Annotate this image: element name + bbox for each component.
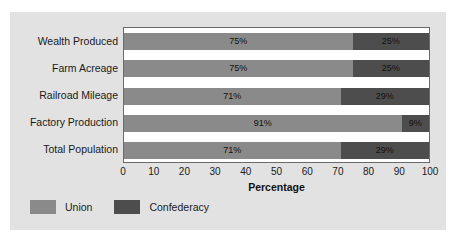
- bar-value-label: 29%: [376, 92, 394, 101]
- x-tick-label: 20: [179, 167, 190, 177]
- x-axis-title: Percentage: [123, 182, 430, 193]
- category-label: Railroad Mileage: [0, 90, 118, 101]
- bar-value-label: 29%: [376, 146, 394, 155]
- bar-segment-confederacy: 29%: [341, 142, 429, 159]
- bar-value-label: 71%: [223, 92, 241, 101]
- bar-value-label: 75%: [229, 37, 247, 46]
- x-tick-label: 90: [394, 167, 405, 177]
- category-label: Total Population: [0, 144, 118, 155]
- bar-series-container: 75%25%75%25%71%29%91%9%71%29%: [124, 28, 429, 162]
- x-tick-label: 100: [422, 167, 439, 177]
- bar-segment-union: 71%: [124, 88, 341, 105]
- legend-item: Union: [30, 200, 92, 214]
- x-tick-label: 50: [271, 167, 282, 177]
- x-tick-label: 40: [240, 167, 251, 177]
- plot-area: 75%25%75%25%71%29%91%9%71%29%: [123, 27, 430, 163]
- x-tick-label: 60: [302, 167, 313, 177]
- bar-row: 75%25%: [124, 60, 429, 77]
- bar-segment-confederacy: 25%: [353, 60, 429, 77]
- bar-value-label: 25%: [382, 64, 400, 73]
- bar-value-label: 71%: [223, 146, 241, 155]
- bar-segment-union: 75%: [124, 33, 353, 50]
- bar-row: 75%25%: [124, 33, 429, 50]
- chart-legend: UnionConfederacy: [30, 200, 231, 214]
- legend-label: Confederacy: [149, 202, 209, 213]
- legend-label: Union: [65, 202, 92, 213]
- x-tick-label: 80: [363, 167, 374, 177]
- bar-value-label: 75%: [229, 64, 247, 73]
- legend-swatch-icon: [30, 200, 56, 214]
- bar-row: 71%29%: [124, 88, 429, 105]
- legend-swatch-icon: [114, 200, 140, 214]
- category-label: Farm Acreage: [0, 63, 118, 74]
- x-tick-label: 70: [332, 167, 343, 177]
- chart-figure: Wealth ProducedFarm AcreageRailroad Mile…: [10, 12, 446, 230]
- bar-row: 91%9%: [124, 115, 429, 132]
- bar-segment-union: 75%: [124, 60, 353, 77]
- bar-segment-union: 91%: [124, 115, 402, 132]
- x-tick-label: 30: [210, 167, 221, 177]
- category-label: Factory Production: [0, 117, 118, 128]
- bar-segment-union: 71%: [124, 142, 341, 159]
- bar-value-label: 9%: [409, 119, 422, 128]
- x-tick-label: 0: [120, 167, 126, 177]
- bar-row: 71%29%: [124, 142, 429, 159]
- x-axis-ticks: 0102030405060708090100: [123, 164, 430, 180]
- x-tick-label: 10: [148, 167, 159, 177]
- bar-segment-confederacy: 9%: [402, 115, 429, 132]
- category-label: Wealth Produced: [0, 36, 118, 47]
- legend-item: Confederacy: [114, 200, 209, 214]
- bar-segment-confederacy: 29%: [341, 88, 429, 105]
- bar-value-label: 25%: [382, 37, 400, 46]
- bar-value-label: 91%: [254, 119, 272, 128]
- bar-segment-confederacy: 25%: [353, 33, 429, 50]
